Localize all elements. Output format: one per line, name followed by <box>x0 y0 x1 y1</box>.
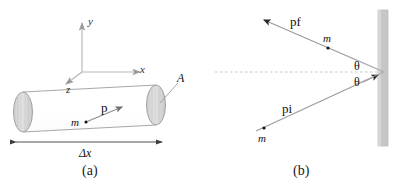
momentum-label-p: p <box>101 101 108 114</box>
mass-point-upper-dot <box>326 46 329 49</box>
mass-point-dot <box>85 121 88 124</box>
cylinder <box>14 85 166 132</box>
angle-label-lower: θ <box>354 76 360 88</box>
panel-a-graphics <box>0 0 198 188</box>
caption-b: (b) <box>293 163 309 179</box>
mass-label-m: m <box>71 117 79 128</box>
area-label-A: A <box>177 72 184 84</box>
length-label-delta-x: Δx <box>79 147 91 159</box>
panel-b-reflection: pf pi m m θ θ (b) <box>198 0 396 188</box>
mass-point-lower-dot <box>262 126 265 129</box>
momentum-initial-arrowhead <box>363 75 378 82</box>
cylinder-left-cap <box>14 92 33 132</box>
momentum-final-label: pf <box>290 15 301 28</box>
momentum-final-subscript: f <box>297 14 301 29</box>
cylinder-body-fill <box>23 85 156 132</box>
wall-highlight <box>378 10 381 146</box>
physics-figure: y x z A m p Δx (a) <box>0 0 396 188</box>
x-axis-label: x <box>140 64 145 75</box>
cylinder-right-cap <box>147 85 166 125</box>
momentum-initial-label: pi <box>282 102 292 115</box>
momentum-initial-subscript: i <box>289 101 293 116</box>
caption-a: (a) <box>82 163 98 179</box>
z-axis-label: z <box>66 84 70 95</box>
mass-label-lower: m <box>258 133 266 144</box>
panel-a-cylinder: y x z A m p Δx (a) <box>0 0 198 188</box>
y-axis-label: y <box>88 16 93 27</box>
mass-label-upper: m <box>323 33 331 44</box>
coordinate-axes <box>66 23 140 84</box>
angle-label-upper: θ <box>354 60 360 72</box>
